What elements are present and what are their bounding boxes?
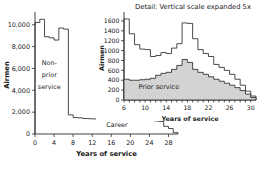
- inset-x-axis-title: Years of service: [160, 115, 219, 123]
- main-y-ticklabel: 6,000: [12, 65, 30, 73]
- inset-y-ticklabel: 400: [108, 76, 120, 83]
- figure-container: 02,0004,0006,0008,00010,0000481216202428…: [0, 0, 263, 176]
- inset-y-ticklabel: 1200: [104, 37, 120, 44]
- main-annotation-nonprior: prior: [42, 71, 57, 79]
- main-annotation-career: Career: [106, 121, 128, 129]
- main-x-ticklabel: 20: [126, 139, 134, 147]
- inset-x-ticklabel: 30: [247, 104, 255, 111]
- main-x-ticklabel: 8: [71, 139, 75, 147]
- main-x-axis-title: Years of service: [75, 150, 137, 158]
- main-x-ticklabel: 28: [164, 139, 172, 147]
- main-annotation-nonprior: Non-: [42, 59, 57, 67]
- inset-y-ticklabel: 600: [108, 67, 120, 74]
- main-x-ticklabel: 0: [33, 139, 37, 147]
- main-y-axis-title: Airmen: [3, 61, 11, 89]
- main-x-ticklabel: 24: [145, 139, 153, 147]
- inset-y-ticklabel: 200: [108, 86, 120, 93]
- inset-y-ticklabel: 1000: [104, 47, 120, 54]
- inset-y-axis-title: Airmen: [98, 45, 106, 71]
- inset-x-ticklabel: 26: [226, 104, 234, 111]
- inset-x-ticklabel: 10: [141, 104, 149, 111]
- inset-y-ticklabel: 1600: [104, 17, 120, 24]
- main-x-ticklabel: 12: [88, 139, 96, 147]
- inset-title: Detail: Vertical scale expanded 5x: [135, 3, 251, 11]
- main-y-ticklabel: 4,000: [12, 87, 30, 95]
- inset-x-ticklabel: 18: [183, 104, 191, 111]
- main-x-ticklabel: 16: [107, 139, 115, 147]
- main-y-ticklabel: 0: [26, 130, 30, 138]
- inset-y-ticklabel: 0: [116, 96, 120, 103]
- main-x-ticklabel: 4: [52, 139, 56, 147]
- inset-annotation-prior: Prior service: [138, 83, 179, 91]
- inset-y-ticklabel: 1400: [104, 27, 120, 34]
- inset-x-ticklabel: 14: [162, 104, 170, 111]
- chart-canvas: 02,0004,0006,0008,00010,0000481216202428…: [0, 0, 263, 176]
- inset-x-ticklabel: 6: [122, 104, 126, 111]
- main-y-ticklabel: 2,000: [12, 108, 30, 116]
- main-annotation-nonprior: service: [38, 83, 61, 91]
- inset-x-ticklabel: 22: [205, 104, 213, 111]
- inset-y-ticklabel: 800: [108, 57, 120, 64]
- main-y-ticklabel: 10,000: [8, 21, 30, 29]
- main-y-ticklabel: 8,000: [12, 43, 30, 51]
